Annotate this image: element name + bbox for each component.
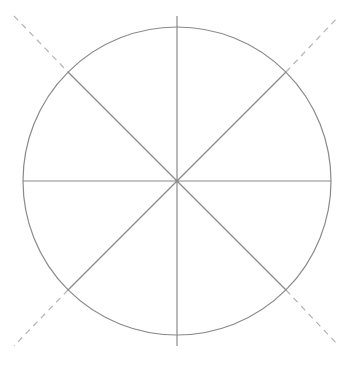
- eight-sector-circle-diagram: [0, 0, 353, 366]
- extension-se: [286, 290, 339, 346]
- center-point: [175, 179, 178, 182]
- extension-ne: [286, 16, 339, 72]
- extension-sw: [14, 290, 68, 346]
- extension-nw: [14, 16, 68, 72]
